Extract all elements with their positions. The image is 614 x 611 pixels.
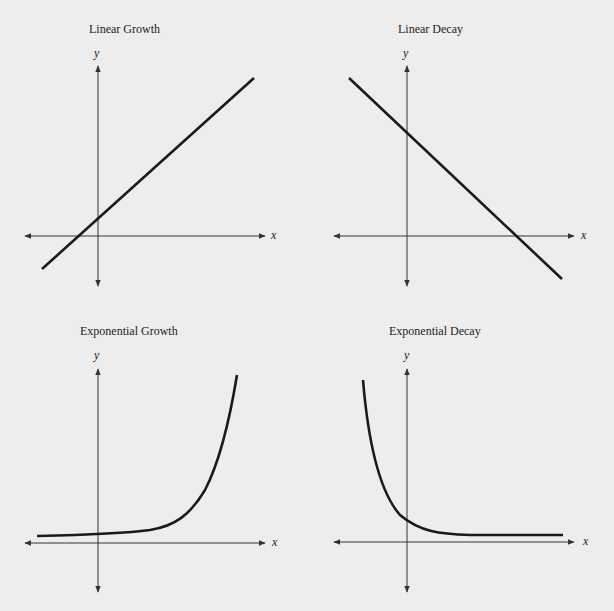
exponential-growth-curve	[37, 375, 237, 536]
graphs-canvas	[0, 0, 614, 611]
x-axis-label: x	[271, 228, 276, 243]
y-axis-label: y	[404, 348, 409, 363]
exponential-growth-graph	[25, 369, 265, 592]
panel-title: Linear Growth	[89, 22, 160, 37]
panel-title: Linear Decay	[398, 22, 463, 37]
panel-title: Exponential Decay	[389, 324, 481, 339]
x-axis-label: x	[581, 228, 586, 243]
decay-line	[349, 78, 562, 279]
linear-growth-graph	[25, 66, 265, 286]
linear-decay-graph	[334, 66, 574, 286]
x-axis-label: x	[583, 534, 588, 549]
exponential-decay-curve	[363, 380, 563, 535]
y-axis-label: y	[94, 348, 99, 363]
x-axis-label: x	[272, 535, 277, 550]
y-axis-label: y	[94, 46, 99, 61]
exponential-decay-graph	[334, 369, 574, 592]
growth-line	[42, 78, 254, 269]
y-axis-label: y	[403, 46, 408, 61]
panel-title: Exponential Growth	[80, 324, 178, 339]
